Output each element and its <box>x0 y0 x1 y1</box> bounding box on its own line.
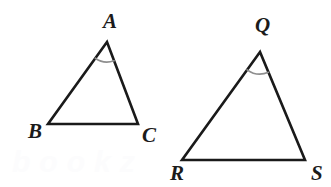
vertex-label-a: A <box>101 9 117 33</box>
vertex-label-b: B <box>27 119 42 143</box>
geometry-figure: bookz A B C Q R S <box>0 0 331 187</box>
vertex-label-c: C <box>142 123 157 147</box>
vertex-label-q: Q <box>255 13 270 37</box>
figure-canvas: bookz A B C Q R S <box>0 0 331 187</box>
vertex-label-r: R <box>169 161 184 185</box>
vertex-label-s: S <box>311 161 323 185</box>
watermark-text: bookz <box>12 145 144 178</box>
